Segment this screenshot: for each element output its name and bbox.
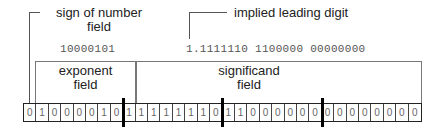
significand-binary: 1.1111110 1100000 00000000 xyxy=(186,43,365,55)
bit-cell: 0 xyxy=(347,104,359,121)
significand-field-label: significand field xyxy=(136,64,422,92)
bit-cell: 1 xyxy=(223,104,235,121)
bit-cell: 0 xyxy=(260,104,272,121)
bit-cell: 0 xyxy=(74,104,86,121)
byte-divider xyxy=(321,98,324,127)
exponent-binary: 10000101 xyxy=(60,43,115,55)
bit-cell: 1 xyxy=(123,104,135,121)
byte-divider xyxy=(122,98,125,127)
implied-bracket-vertical xyxy=(189,12,190,39)
bit-cell: 0 xyxy=(322,104,334,121)
byte-divider xyxy=(221,98,224,127)
bit-cell: 1 xyxy=(136,104,148,121)
bit-cell: 1 xyxy=(160,104,172,121)
bit-cell: 0 xyxy=(272,104,284,121)
bit-cell: 1 xyxy=(36,104,48,121)
bit-cell: 1 xyxy=(98,104,110,121)
bit-cell: 1 xyxy=(198,104,210,121)
bit-cell: 0 xyxy=(396,104,408,121)
sign-label: sign of number field xyxy=(44,6,154,34)
sign-bracket-horizontal xyxy=(29,12,40,13)
bit-cell: 0 xyxy=(49,104,61,121)
bit-cell: 0 xyxy=(384,104,396,121)
bit-cell: 0 xyxy=(334,104,346,121)
bit-cell: 0 xyxy=(61,104,73,121)
bit-cell: 0 xyxy=(297,104,309,121)
bit-cell: 0 xyxy=(285,104,297,121)
bit-cell: 1 xyxy=(235,104,247,121)
bit-cell: 0 xyxy=(86,104,98,121)
sign-bracket-vertical xyxy=(29,12,30,103)
implied-digit-label: implied leading digit xyxy=(234,6,348,20)
bit-cell: 0 xyxy=(24,104,36,121)
bit-cell: 0 xyxy=(359,104,371,121)
bit-cell: 1 xyxy=(173,104,185,121)
implied-bracket-horizontal xyxy=(189,12,227,13)
bit-cell: 0 xyxy=(247,104,259,121)
bit-cell: 0 xyxy=(409,104,421,121)
bit-cell: 1 xyxy=(185,104,197,121)
exponent-field-label: exponent field xyxy=(35,64,136,92)
bit-cell: 1 xyxy=(148,104,160,121)
bit-cell: 0 xyxy=(371,104,383,121)
